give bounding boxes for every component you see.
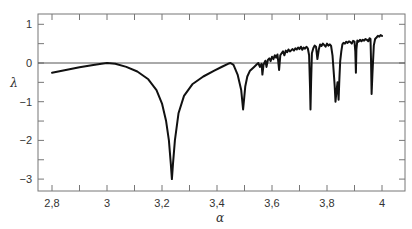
x-tick-label: 3,4 — [209, 197, 224, 209]
plot-frame — [38, 14, 405, 191]
y-axis-label: λ — [9, 76, 18, 90]
y-tick-label: 0 — [26, 57, 32, 69]
x-tick-label: 3,2 — [154, 197, 169, 209]
x-tick-label: 3,8 — [319, 197, 334, 209]
x-tick-label: 2,8 — [44, 197, 59, 209]
y-tick-label: −3 — [19, 173, 32, 185]
x-axis-ticks — [52, 14, 382, 191]
x-tick-label: 3 — [104, 197, 110, 209]
x-tick-label: 4 — [379, 197, 385, 209]
lyapunov-chart: 2,833,23,43,63,84 10−1−2−3 α λ — [0, 0, 412, 229]
x-tick-label: 3,6 — [264, 197, 279, 209]
y-tick-label: −1 — [19, 96, 32, 108]
y-axis-tick-labels: 10−1−2−3 — [19, 18, 32, 185]
y-axis-ticks — [38, 24, 405, 179]
y-tick-label: 1 — [26, 18, 32, 30]
x-axis-label: α — [216, 211, 224, 225]
y-tick-label: −2 — [19, 134, 32, 146]
lyapunov-curve — [52, 35, 382, 179]
x-axis-tick-labels: 2,833,23,43,63,84 — [44, 197, 385, 209]
